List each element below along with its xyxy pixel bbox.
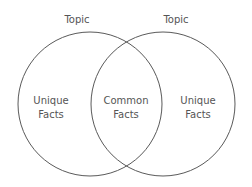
common-label-line1: Common bbox=[103, 95, 148, 107]
right-unique-facts: Unique Facts bbox=[180, 95, 215, 121]
venn-diagram bbox=[0, 0, 252, 187]
left-unique-facts: Unique Facts bbox=[33, 95, 68, 121]
left-label-line2: Facts bbox=[33, 109, 68, 121]
common-facts: Common Facts bbox=[103, 95, 148, 121]
left-label-line1: Unique bbox=[33, 95, 68, 107]
common-label-line2: Facts bbox=[103, 109, 148, 121]
right-label-line2: Facts bbox=[180, 109, 215, 121]
left-topic-label: Topic bbox=[64, 14, 89, 26]
right-label-line1: Unique bbox=[180, 95, 215, 107]
right-topic-label: Topic bbox=[163, 14, 188, 26]
